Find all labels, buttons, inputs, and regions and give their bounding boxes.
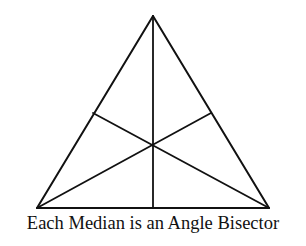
medians: [37, 16, 269, 208]
diagram-caption: Each Median is an Angle Bisector: [0, 213, 306, 234]
triangle-side-right: [153, 16, 269, 208]
triangle-diagram: [0, 0, 306, 246]
median-from-bottom-right: [93, 113, 269, 208]
triangle-side-left: [37, 16, 153, 208]
median-from-bottom-left: [37, 113, 211, 208]
